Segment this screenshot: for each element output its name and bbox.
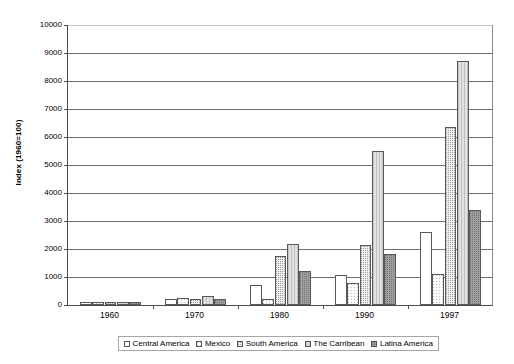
bar	[165, 299, 177, 305]
bar	[129, 302, 141, 305]
y-axis-tick	[64, 249, 68, 250]
bar	[287, 244, 299, 305]
y-axis-tick	[64, 53, 68, 54]
y-axis-tick-label: 3000	[20, 217, 62, 225]
y-axis-tick-label: 6000	[20, 133, 62, 141]
y-axis-tick-label: 2000	[20, 245, 62, 253]
bar	[432, 274, 444, 305]
legend-item-label: Latina America	[380, 339, 433, 348]
x-axis-tick-label: 1960	[80, 310, 140, 320]
x-axis-tick	[238, 305, 239, 309]
y-axis-tick-labels: 0100020003000400050006000700080009000100…	[18, 0, 62, 364]
x-axis-tick-label: 1970	[165, 310, 225, 320]
bar	[445, 127, 457, 305]
chart-legend: Central AmericaMexicoSouth AmericaThe Ca…	[118, 336, 439, 351]
bar	[384, 254, 396, 305]
bar	[214, 299, 226, 305]
y-axis-tick-label: 0	[20, 301, 62, 309]
gridline	[68, 193, 493, 194]
y-axis-tick	[64, 25, 68, 26]
bar	[372, 151, 384, 305]
bar	[202, 296, 214, 305]
bar	[105, 302, 117, 305]
y-axis-tick	[64, 137, 68, 138]
x-axis-tick-label: 1980	[250, 310, 310, 320]
y-axis-tick-label: 7000	[20, 105, 62, 113]
legend-swatch-icon	[124, 341, 130, 347]
bar	[299, 271, 311, 305]
bar-chart: Index (1960=100) 01000200030004000500060…	[0, 0, 514, 364]
y-axis-tick	[64, 305, 68, 306]
y-axis-tick	[64, 193, 68, 194]
y-axis-tick-label: 4000	[20, 189, 62, 197]
bar	[347, 283, 359, 305]
bar	[80, 302, 92, 305]
bar	[335, 275, 347, 305]
y-axis-tick-label: 9000	[20, 49, 62, 57]
legend-item: Latina America	[371, 339, 432, 348]
legend-swatch-icon	[196, 341, 202, 347]
legend-item-label: South America	[246, 339, 298, 348]
x-axis-tick-label: 1997	[420, 310, 480, 320]
bar	[190, 299, 202, 305]
y-axis-tick-label: 5000	[20, 161, 62, 169]
legend-item-label: The Carribean	[313, 339, 364, 348]
gridline	[68, 165, 493, 166]
legend-item: Mexico	[196, 339, 230, 348]
bar	[250, 285, 262, 305]
y-axis-tick	[64, 221, 68, 222]
x-axis-tick	[153, 305, 154, 309]
bar	[457, 61, 469, 305]
legend-swatch-icon	[237, 341, 243, 347]
y-axis-tick	[64, 165, 68, 166]
bar	[117, 302, 129, 305]
bar	[275, 256, 287, 305]
gridline	[68, 53, 493, 54]
bar	[262, 299, 274, 305]
bar	[469, 210, 481, 305]
legend-item: The Carribean	[305, 339, 365, 348]
gridline	[68, 137, 493, 138]
y-axis-tick-label: 1000	[20, 273, 62, 281]
bar	[360, 245, 372, 305]
legend-item: Central America	[124, 339, 189, 348]
y-axis-tick	[64, 277, 68, 278]
legend-swatch-icon	[305, 341, 311, 347]
legend-item: South America	[237, 339, 298, 348]
bar	[177, 298, 189, 305]
x-axis-tick	[323, 305, 324, 309]
plot-area	[67, 25, 493, 306]
y-axis-tick	[64, 109, 68, 110]
gridline	[68, 221, 493, 222]
gridline	[68, 81, 493, 82]
legend-swatch-icon	[371, 341, 377, 347]
bar	[420, 232, 432, 305]
y-axis-tick	[64, 81, 68, 82]
legend-item-label: Mexico	[205, 339, 230, 348]
legend-item-label: Central America	[133, 339, 190, 348]
gridline	[68, 109, 493, 110]
x-axis-tick	[408, 305, 409, 309]
x-axis-tick-label: 1990	[335, 310, 395, 320]
y-axis-tick-label: 8000	[20, 77, 62, 85]
y-axis-tick-label: 10000	[20, 21, 62, 29]
bar	[92, 302, 104, 305]
